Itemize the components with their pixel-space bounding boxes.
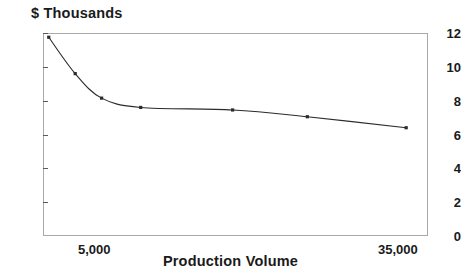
- chart-container: $ Thousands 12 10 8 6 4 2 0 5,000 35,000…: [0, 0, 461, 279]
- x-axis-labels: 5,000 35,000: [0, 0, 461, 279]
- x-axis-title: Production Volume: [0, 253, 461, 269]
